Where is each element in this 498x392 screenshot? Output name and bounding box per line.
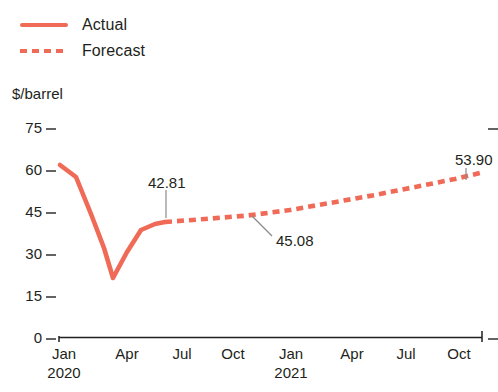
x-tick-month: Oct — [447, 345, 470, 362]
x-tick-apr-2020: Apr — [115, 344, 138, 363]
leader-line-45-08 — [252, 216, 272, 236]
x-tick-oct-2021: Oct — [447, 344, 470, 363]
annotation-53-90: 53.90 — [455, 152, 493, 167]
x-tick-jan-2020: Jan 2020 — [47, 344, 80, 382]
annotation-45-08: 45.08 — [276, 233, 314, 248]
x-tick-month: Apr — [340, 345, 363, 362]
x-tick-month: Oct — [221, 345, 244, 362]
x-tick-year: 2020 — [47, 363, 80, 382]
x-tick-month: Jan — [52, 345, 76, 362]
x-axis-baseline — [59, 331, 482, 342]
plot-graphics — [0, 0, 498, 392]
x-tick-jan-2021: Jan 2021 — [274, 344, 307, 382]
annotation-42-81: 42.81 — [148, 175, 186, 190]
series-line-forecast — [165, 173, 480, 222]
x-tick-month: Apr — [115, 345, 138, 362]
y-axis-ticks — [46, 129, 56, 339]
x-tick-month: Jan — [279, 345, 303, 362]
x-tick-month: Jul — [396, 345, 415, 362]
x-tick-oct-2020: Oct — [221, 344, 244, 363]
x-tick-apr-2021: Apr — [340, 344, 363, 363]
oil-price-forecast-chart: Actual Forecast $/barrel 75 60 45 30 15 … — [0, 0, 498, 392]
x-tick-jul-2020: Jul — [172, 344, 191, 363]
x-tick-year: 2021 — [274, 363, 307, 382]
x-tick-month: Jul — [172, 345, 191, 362]
x-tick-jul-2021: Jul — [396, 344, 415, 363]
